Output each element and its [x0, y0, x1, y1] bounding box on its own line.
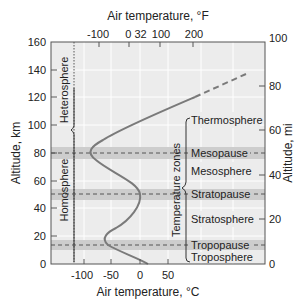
- svg-text:120: 120: [28, 91, 46, 103]
- svg-text:100: 100: [28, 119, 46, 131]
- top-tick-labels: -100 0 32 100 200: [87, 28, 203, 40]
- atmosphere-chart: 160 140 120 100 80 60 40 20 0 100 80 60 …: [0, 0, 305, 305]
- mesopause-label: Mesopause: [191, 147, 248, 159]
- svg-text:80: 80: [34, 147, 46, 159]
- svg-text:100: 100: [269, 32, 287, 44]
- stratopause-label: Stratopause: [191, 188, 250, 200]
- svg-text:60: 60: [269, 124, 281, 136]
- tropopause-label: Tropopause: [191, 239, 249, 251]
- svg-text:160: 160: [28, 36, 46, 48]
- svg-text:40: 40: [34, 202, 46, 214]
- bottom-tick-labels: -100 -50 0 50: [71, 269, 174, 281]
- stratosphere-label: Stratosphere: [191, 213, 254, 225]
- svg-text:20: 20: [269, 213, 281, 225]
- svg-text:-100: -100: [87, 28, 109, 40]
- left-axis-title: Altitude, km: [9, 122, 23, 185]
- svg-text:80: 80: [269, 80, 281, 92]
- svg-text:-100: -100: [71, 269, 93, 281]
- svg-text:0: 0: [269, 258, 275, 270]
- bottom-axis-title: Air temperature, °C: [97, 285, 200, 299]
- svg-text:-50: -50: [103, 269, 119, 281]
- thermosphere-label: Thermosphere: [191, 114, 263, 126]
- svg-text:100: 100: [152, 28, 170, 40]
- heterosphere-label: Heterosphere: [58, 57, 70, 124]
- svg-text:40: 40: [269, 169, 281, 181]
- mesosphere-label: Mesosphere: [191, 165, 252, 177]
- homosphere-label: Homosphere: [58, 159, 70, 222]
- troposphere-label: Troposphere: [191, 251, 253, 263]
- svg-text:0: 0: [137, 269, 143, 281]
- svg-text:50: 50: [162, 269, 174, 281]
- top-axis-title: Air temperature, °F: [107, 9, 209, 23]
- svg-text:140: 140: [28, 64, 46, 76]
- svg-text:200: 200: [185, 28, 203, 40]
- left-tick-labels: 160 140 120 100 80 60 40 20 0: [28, 36, 46, 270]
- svg-text:60: 60: [34, 175, 46, 187]
- svg-text:0 32: 0 32: [125, 28, 146, 40]
- svg-text:20: 20: [34, 230, 46, 242]
- temperature-zones-label: Temperature zones: [170, 142, 182, 237]
- svg-text:0: 0: [40, 258, 46, 270]
- right-axis-title: Altitude, mi: [281, 123, 295, 182]
